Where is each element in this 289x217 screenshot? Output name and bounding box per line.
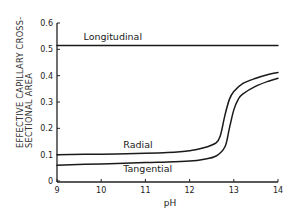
- x-tick-label: 9: [54, 186, 59, 195]
- y-tick-label: 0.6: [40, 19, 53, 28]
- y-tick-label: 0.1: [40, 151, 53, 160]
- x-tick-label: 12: [185, 186, 195, 195]
- x-axis-title: pH: [164, 198, 176, 208]
- x-tick-label: 14: [273, 186, 283, 195]
- y-axis-title-line: SECTIONAL AREA: [24, 73, 34, 148]
- y-tick-label: 0.4: [40, 72, 53, 81]
- line-chart: EFFECTIVE CAPILLARY CROSS-SECTIONAL AREA…: [0, 0, 289, 217]
- y-tick-label: 0.5: [40, 45, 53, 54]
- x-tick-label: 10: [96, 186, 106, 195]
- curve-label-radial: Radial: [123, 139, 152, 150]
- curve-label-longitudinal: Longitudinal: [84, 31, 143, 42]
- axes: [57, 23, 278, 182]
- y-tick-label: 0: [48, 177, 53, 186]
- y-tick-label: 0.3: [40, 98, 53, 107]
- x-tick-label: 11: [140, 186, 150, 195]
- x-tick-label: 13: [229, 186, 239, 195]
- y-tick-label: 0.2: [40, 124, 53, 133]
- curve-label-tangential: Tangential: [122, 163, 172, 174]
- y-axis-title: EFFECTIVE CAPILLARY CROSS-SECTIONAL AREA: [15, 16, 34, 148]
- curves: [57, 45, 278, 165]
- curve-radial: [57, 73, 278, 155]
